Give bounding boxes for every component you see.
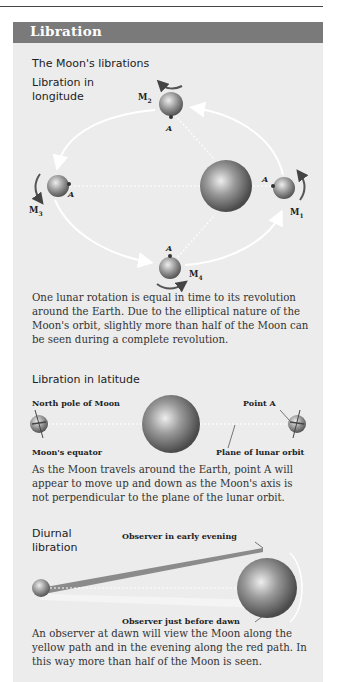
evening-label: Observer in early evening: [122, 531, 237, 541]
point-a-label: Point A: [243, 398, 276, 408]
longitude-diagram: [36, 84, 305, 289]
m4-point-label: A: [166, 243, 172, 253]
longitude-caption: One lunar rotation is equal in time to i…: [32, 291, 312, 347]
diurnal-title-2: libration: [32, 541, 77, 555]
equator-label: Moon's equator: [32, 447, 102, 457]
earth-icon: [237, 558, 297, 618]
m1-point-label: A: [262, 174, 268, 184]
m1-label: M1: [290, 207, 304, 219]
m3-label: M3: [29, 205, 43, 217]
north-pole-label: North pole of Moon: [32, 398, 120, 408]
m2-point-label: A: [166, 123, 172, 133]
dawn-label: Observer just before dawn: [122, 616, 240, 626]
moon-m4-icon: [159, 257, 181, 279]
latitude-caption: As the Moon travels around the Earth, po…: [32, 463, 312, 505]
m2-label: M2: [138, 92, 152, 104]
diurnal-title-1: Diurnal: [32, 527, 72, 541]
moon-m3-icon: [47, 175, 69, 197]
diurnal-caption: An observer at dawn will view the Moon a…: [32, 627, 312, 669]
earth-icon: [200, 160, 252, 212]
latitude-title: Libration in latitude: [32, 373, 140, 387]
moon-m1-icon: [273, 177, 295, 199]
moon-m2-icon: [159, 92, 183, 116]
m3-point-label: A: [68, 189, 74, 199]
moon-icon: [32, 579, 50, 597]
m4-label: M4: [189, 269, 203, 281]
plane-label: Plane of lunar orbit: [216, 447, 304, 457]
earth-icon: [142, 395, 200, 453]
